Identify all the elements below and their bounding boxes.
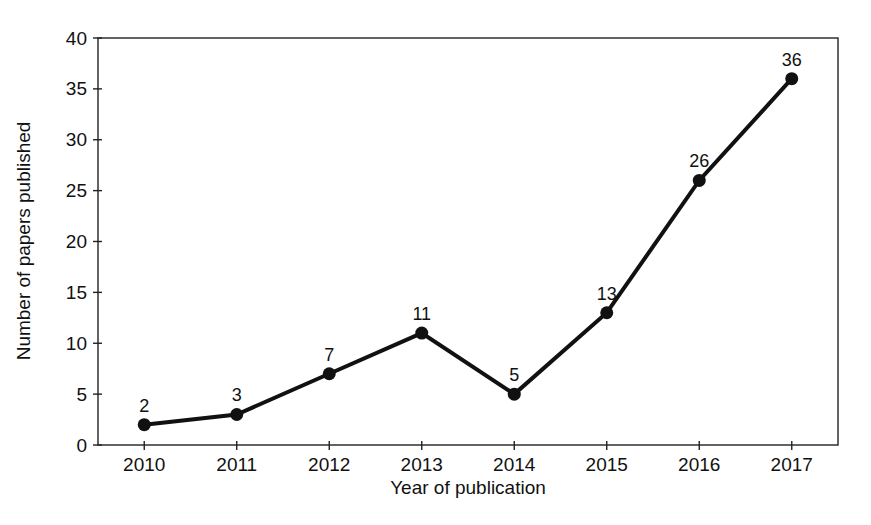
x-tick-label: 2013	[401, 454, 443, 475]
data-point-label: 36	[782, 50, 802, 70]
x-axis-title: Year of publication	[390, 477, 546, 498]
x-tick-label: 2011	[216, 454, 257, 475]
line-chart: 0510152025303540201020112012201320142015…	[0, 0, 871, 525]
data-point-label: 26	[689, 151, 709, 171]
y-tick-label: 15	[66, 282, 87, 303]
x-tick-label: 2012	[308, 454, 350, 475]
plot-border	[98, 38, 838, 445]
publications-per-year-figure: 0510152025303540201020112012201320142015…	[0, 0, 871, 525]
data-point-marker	[600, 306, 613, 319]
x-tick-label: 2015	[586, 454, 628, 475]
data-point-label: 3	[232, 385, 242, 405]
y-tick-label: 40	[66, 28, 87, 49]
data-point-marker	[693, 174, 706, 187]
data-point-marker	[415, 327, 428, 340]
y-tick-label: 10	[66, 333, 87, 354]
data-point-label: 7	[324, 345, 334, 365]
data-point-marker	[508, 388, 521, 401]
y-tick-label: 0	[76, 435, 87, 456]
data-point-marker	[785, 72, 798, 85]
data-point-marker	[138, 418, 151, 431]
y-tick-label: 20	[66, 231, 87, 252]
data-point-label: 5	[509, 365, 519, 385]
y-tick-label: 35	[66, 78, 87, 99]
data-point-marker	[323, 367, 336, 380]
chart-plot-area: 0510152025303540201020112012201320142015…	[66, 28, 838, 476]
x-tick-label: 2014	[493, 454, 536, 475]
data-point-label: 13	[597, 284, 617, 304]
y-tick-label: 30	[66, 129, 87, 150]
x-tick-label: 2010	[123, 454, 165, 475]
data-line	[144, 79, 792, 425]
x-tick-label: 2017	[771, 454, 813, 475]
y-tick-label: 25	[66, 180, 87, 201]
data-point-label: 11	[412, 304, 431, 324]
y-tick-label: 5	[76, 384, 87, 405]
data-point-label: 2	[139, 396, 149, 416]
x-tick-label: 2016	[678, 454, 720, 475]
y-axis-title: Number of papers published	[13, 122, 34, 361]
data-point-marker	[230, 408, 243, 421]
